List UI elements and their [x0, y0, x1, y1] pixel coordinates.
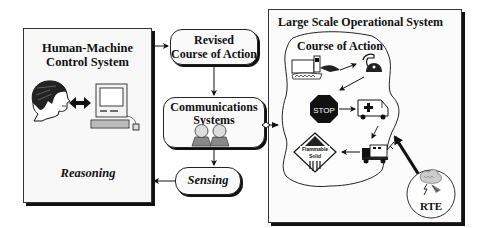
course-of-action-label: Course of Action [297, 39, 383, 53]
person-silhouette-icon [192, 125, 211, 147]
diagram-graphics: STOP Flammable Solid [0, 0, 484, 228]
stop-text: STOP [313, 106, 335, 115]
bidirectional-arrow-icon [69, 97, 91, 109]
person-silhouette-icon [210, 125, 229, 147]
desktop-computer-icon [91, 84, 139, 130]
hazmat-text-line1: Flammable [302, 146, 328, 152]
stop-sign-icon: STOP [310, 95, 338, 123]
hazmat-text-line2: Solid [309, 153, 321, 159]
bidirectional-connector-icon [262, 122, 270, 128]
rte-node: RTE [407, 170, 455, 218]
human-head-icon [32, 81, 70, 121]
connector-arrows [153, 46, 278, 181]
rte-label: RTE [420, 200, 442, 212]
